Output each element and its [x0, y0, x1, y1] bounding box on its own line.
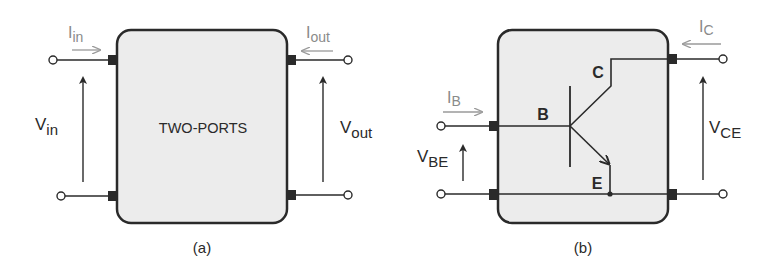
port-square-icon	[108, 191, 118, 201]
caption-a: (a)	[193, 239, 211, 256]
port-square-icon	[668, 54, 677, 64]
i-b-label: IB	[447, 89, 461, 109]
panel-a: Iin Iout Vin Vout TWO-PORTS (a)	[35, 24, 373, 256]
i-out-label: Iout	[306, 24, 330, 45]
input-bottom-terminal-icon	[57, 192, 65, 200]
two-port-diagram: Iin Iout Vin Vout TWO-PORTS (a)	[0, 0, 774, 274]
port-square-icon	[489, 121, 499, 131]
v-in-label: Vin	[35, 115, 58, 138]
base-label: B	[537, 106, 549, 123]
emitter-label: E	[592, 175, 603, 192]
port-square-icon	[108, 55, 118, 65]
i-in-label: Iin	[68, 24, 83, 45]
output-top-terminal-icon	[344, 56, 352, 64]
v-ce-label: VCE	[709, 118, 741, 141]
output-bottom-terminal-icon	[344, 191, 352, 199]
collector-terminal-icon	[719, 55, 727, 63]
panel-b: IB IC VBE VCE B C E (b)	[417, 18, 741, 256]
port-square-icon	[287, 190, 296, 200]
input-top-terminal-icon	[49, 56, 57, 64]
collector-label: C	[592, 64, 604, 81]
port-square-icon	[489, 189, 499, 200]
port-square-icon	[668, 189, 677, 200]
emitter-right-terminal-icon	[719, 190, 727, 198]
port-square-icon	[287, 55, 296, 65]
emitter-left-terminal-icon	[437, 190, 445, 198]
i-c-label: IC	[699, 18, 714, 38]
two-ports-label: TWO-PORTS	[159, 120, 247, 136]
base-terminal-icon	[437, 122, 445, 130]
junction-dot-icon	[607, 191, 612, 196]
v-be-label: VBE	[417, 147, 448, 170]
v-out-label: Vout	[340, 118, 373, 141]
caption-b: (b)	[574, 239, 592, 256]
